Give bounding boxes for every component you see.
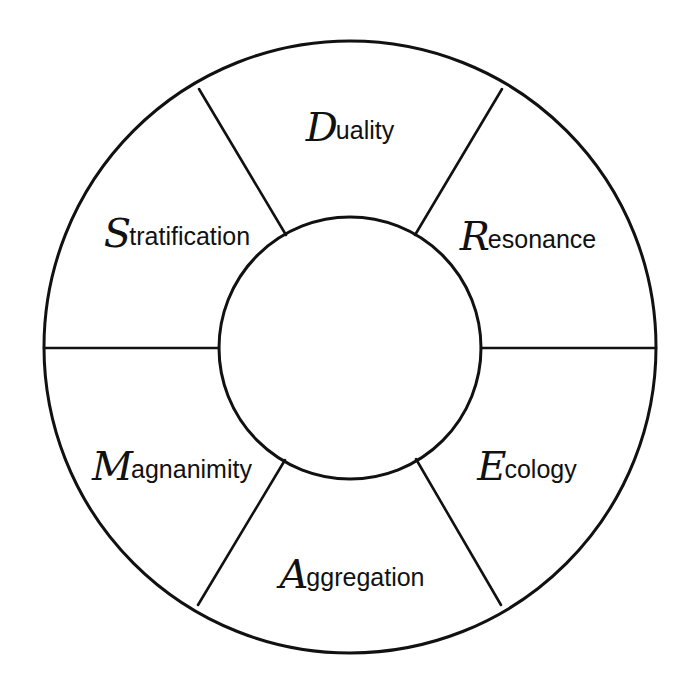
segment-text: ggregation — [306, 563, 424, 591]
segment-initial: R — [460, 213, 488, 259]
segment-text: uality — [336, 116, 394, 144]
segment-label-duality: Duality — [306, 107, 394, 147]
segment-label-stratification: Stratification — [104, 213, 250, 253]
segment-initial: D — [306, 104, 336, 150]
segment-label-resonance: Resonance — [460, 216, 597, 256]
segment-text: agnanimity — [131, 455, 252, 483]
segment-text: esonance — [488, 225, 596, 253]
segment-label-aggregation: Aggregation — [279, 554, 424, 594]
segment-initial: M — [92, 443, 131, 489]
segment-initial: S — [104, 210, 129, 256]
segment-initial: A — [279, 551, 306, 597]
segment-label-ecology: Ecology — [477, 446, 576, 486]
inner-circle — [219, 217, 481, 479]
divider-top-right — [415, 89, 502, 235]
segment-text: tratification — [129, 222, 250, 250]
segment-text: cology — [504, 455, 576, 483]
segment-label-magnanimity: Magnanimity — [92, 446, 252, 486]
segment-initial: E — [477, 443, 504, 489]
